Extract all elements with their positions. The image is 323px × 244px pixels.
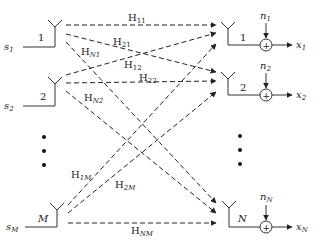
- label-H1M: H1M: [71, 169, 92, 182]
- receiver-1: [221, 22, 292, 51]
- noise-n1-label: n1: [260, 10, 271, 23]
- adder-N-plus: +: [263, 223, 271, 233]
- channel-HN2: [66, 91, 216, 213]
- rx1-antenna-label: 1: [240, 32, 246, 43]
- rxN-antenna-label: N: [237, 213, 248, 224]
- noise-nN-label: nN: [260, 191, 273, 204]
- label-HNM: HNM: [131, 225, 154, 238]
- label-H11: H11: [128, 12, 146, 25]
- label-H12: H12: [124, 59, 142, 72]
- tx-ellipsis-dots: [42, 135, 46, 167]
- label-HN2: HN2: [84, 92, 104, 105]
- noise-n2-label: n2: [260, 60, 271, 73]
- txM-antenna-label: M: [37, 213, 49, 224]
- receiver-2: [221, 72, 292, 101]
- rx-ellipsis-dots: [238, 134, 242, 166]
- signal-s1-label: s1: [4, 41, 14, 54]
- signal-sM-label: sM: [6, 221, 19, 234]
- output-xN-label: xN: [296, 221, 309, 234]
- output-x2-label: x2: [296, 89, 307, 102]
- label-HN1: HN1: [81, 46, 100, 59]
- receiver-N: [222, 201, 292, 233]
- rx2-antenna-label: 2: [240, 82, 246, 93]
- label-H22: H22: [139, 72, 157, 85]
- tx2-antenna-label: 2: [40, 91, 46, 102]
- tx1-antenna-label: 1: [38, 32, 44, 43]
- output-x1-label: x1: [296, 39, 306, 52]
- adder-2-plus: +: [263, 91, 271, 101]
- mimo-diagram: s1 1 s2 2 sM M H11 H21 HN1: [0, 0, 323, 244]
- adder-1-plus: +: [263, 41, 271, 51]
- label-H2M: H2M: [115, 179, 136, 192]
- signal-s2-label: s2: [4, 100, 14, 113]
